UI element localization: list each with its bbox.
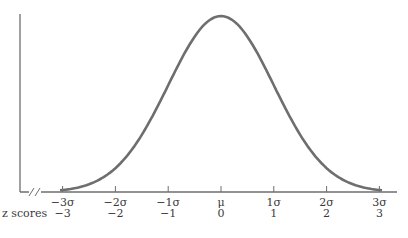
z-score-label: 1 <box>270 207 277 220</box>
x-axis-ticks <box>63 186 380 192</box>
z-score-label: −3 <box>54 207 70 220</box>
z-score-label: 3 <box>376 207 383 220</box>
normal-distribution-curve <box>60 16 382 190</box>
z-scores-row-label: z scores <box>2 207 47 220</box>
axis-break-icon <box>29 188 41 196</box>
z-score-label: −2 <box>107 207 123 220</box>
z-score-label: 0 <box>218 207 225 220</box>
z-score-label: 2 <box>323 207 330 220</box>
z-score-label: −1 <box>160 207 176 220</box>
